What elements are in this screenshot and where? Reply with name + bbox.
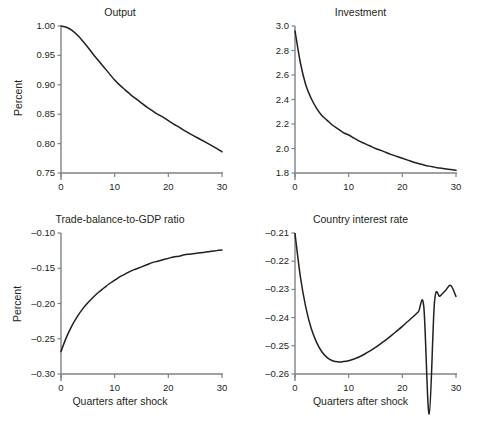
y-tick-label: 0.75 — [9, 168, 55, 178]
plot-svg — [295, 233, 458, 382]
data-series-line — [61, 250, 222, 352]
panel-country-interest-rate: Country interest rate –0.26–0.25–0.24–0.… — [240, 205, 481, 422]
panel-title-trade-balance: Trade-balance-to-GDP ratio — [0, 213, 240, 226]
y-tick-label: –0.30 — [9, 369, 55, 379]
plot-area-output: 0.750.800.850.900.951.000102030 — [61, 26, 222, 173]
plot-area-trade-balance: –0.30–0.25–0.20–0.15–0.100102030 — [61, 233, 222, 374]
y-tick-label: –0.26 — [243, 369, 289, 379]
y-tick-label: –0.25 — [9, 334, 55, 344]
x-tick-label: 10 — [109, 383, 120, 393]
plot-svg — [295, 26, 458, 181]
x-tick-label: 20 — [397, 182, 408, 192]
panel-title-investment: Investment — [240, 6, 481, 19]
figure-impulse-response-panels: Output Percent 0.750.800.850.900.951.000… — [0, 0, 481, 422]
x-tick-label: 10 — [343, 383, 354, 393]
data-series-line — [295, 234, 456, 414]
y-tick-label: –0.25 — [243, 341, 289, 351]
y-tick-label: 2.8 — [243, 46, 289, 56]
y-tick-label: 2.0 — [243, 144, 289, 154]
x-tick-label: 0 — [58, 383, 63, 393]
x-tick-label: 30 — [451, 182, 462, 192]
y-tick-label: 1.8 — [243, 168, 289, 178]
plot-area-country-interest-rate: –0.26–0.25–0.24–0.23–0.22–0.210102030 — [295, 233, 456, 374]
y-tick-label: 0.95 — [9, 51, 55, 61]
x-axis-label-country-interest-rate: Quarters after shock — [240, 395, 481, 407]
x-axis-label-trade-balance: Quarters after shock — [0, 395, 240, 407]
y-tick-label: –0.20 — [9, 299, 55, 309]
data-series-line — [61, 26, 222, 152]
x-tick-label: 10 — [343, 182, 354, 192]
data-series-line — [295, 31, 456, 170]
y-tick-label: 0.80 — [9, 139, 55, 149]
x-tick-label: 0 — [292, 182, 297, 192]
x-tick-label: 20 — [163, 182, 174, 192]
x-tick-label: 30 — [217, 383, 228, 393]
plot-svg — [61, 26, 224, 181]
y-tick-label: 2.6 — [243, 70, 289, 80]
plot-area-investment: 1.82.02.22.42.62.83.00102030 — [295, 26, 456, 173]
x-tick-label: 10 — [109, 182, 120, 192]
y-tick-label: 3.0 — [243, 21, 289, 31]
panel-title-output: Output — [0, 6, 240, 19]
y-tick-label: –0.15 — [9, 264, 55, 274]
panel-output: Output Percent 0.750.800.850.900.951.000… — [0, 0, 240, 205]
x-tick-label: 30 — [451, 383, 462, 393]
y-tick-label: 2.2 — [243, 119, 289, 129]
y-tick-label: 2.4 — [243, 95, 289, 105]
y-tick-label: –0.21 — [243, 228, 289, 238]
x-tick-label: 20 — [163, 383, 174, 393]
y-tick-label: –0.10 — [9, 228, 55, 238]
x-tick-label: 20 — [397, 383, 408, 393]
panel-investment: Investment 1.82.02.22.42.62.83.00102030 — [240, 0, 481, 205]
y-tick-label: –0.22 — [243, 256, 289, 266]
plot-svg — [61, 233, 224, 382]
y-tick-label: –0.24 — [243, 313, 289, 323]
panel-trade-balance: Trade-balance-to-GDP ratio Percent –0.30… — [0, 205, 240, 422]
y-axis-label-output: Percent — [12, 68, 24, 128]
x-tick-label: 0 — [292, 383, 297, 393]
y-tick-label: –0.23 — [243, 285, 289, 295]
y-tick-label: 0.85 — [9, 109, 55, 119]
y-tick-label: 0.90 — [9, 80, 55, 90]
x-tick-label: 0 — [58, 182, 63, 192]
y-tick-label: 1.00 — [9, 21, 55, 31]
x-tick-label: 30 — [217, 182, 228, 192]
panel-title-country-interest-rate: Country interest rate — [240, 213, 481, 226]
